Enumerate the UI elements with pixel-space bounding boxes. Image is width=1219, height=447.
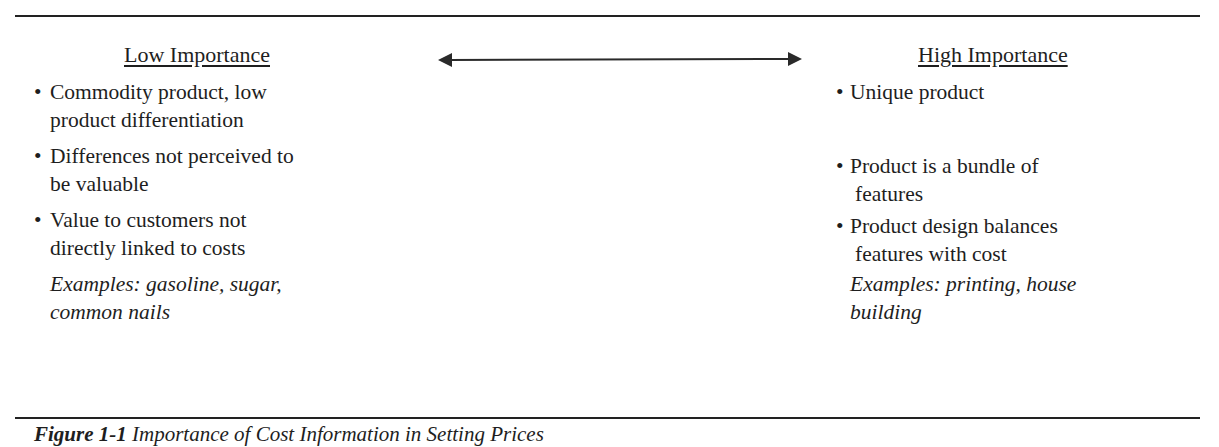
- high-item-2-line2: features: [850, 180, 1039, 208]
- low-item-3-line2: directly linked to costs: [50, 234, 246, 262]
- low-examples: Examples: gasoline, sugar, common nails: [34, 270, 282, 326]
- low-item-2-line1: Differences not perceived to: [50, 142, 294, 170]
- figure-caption: Figure 1-1 Importance of Cost Informatio…: [34, 422, 544, 447]
- low-item-2-line2: be valuable: [50, 170, 294, 198]
- high-examples-line2: building: [850, 298, 1076, 326]
- low-item-1-line1: Commodity product, low: [50, 78, 267, 106]
- figure-caption-text: Importance of Cost Information in Settin…: [132, 422, 544, 446]
- high-item-1-line1: Unique product: [850, 78, 984, 106]
- high-importance-heading: High Importance: [918, 42, 1068, 68]
- bullet-icon: •: [34, 206, 42, 234]
- bullet-icon: •: [34, 78, 42, 106]
- high-item-3: • Product design balances features with …: [836, 212, 1058, 268]
- high-item-2: • Product is a bundle of features: [836, 152, 1039, 208]
- low-examples-line1: Examples: gasoline, sugar,: [50, 270, 282, 298]
- high-item-2-line1: Product is a bundle of: [850, 152, 1039, 180]
- low-item-2: • Differences not perceived to be valuab…: [34, 142, 294, 198]
- low-item-1: • Commodity product, low product differe…: [34, 78, 267, 134]
- high-examples-line1: Examples: printing, house: [850, 270, 1076, 298]
- double-headed-arrow-icon: [437, 50, 803, 70]
- low-item-1-line2: product differentiation: [50, 106, 267, 134]
- high-item-3-line2: features with cost: [850, 240, 1058, 268]
- bullet-icon: •: [836, 152, 844, 180]
- high-item-1: • Unique product: [836, 78, 984, 106]
- low-item-3-line1: Value to customers not: [50, 206, 246, 234]
- bullet-icon: •: [836, 78, 844, 106]
- high-item-3-line1: Product design balances: [850, 212, 1058, 240]
- bullet-icon: •: [836, 212, 844, 240]
- figure-label: Figure 1-1: [34, 422, 127, 446]
- top-rule: [15, 15, 1200, 17]
- bullet-icon: •: [34, 142, 42, 170]
- high-examples: Examples: printing, house building: [836, 270, 1076, 326]
- low-importance-heading: Low Importance: [124, 42, 270, 68]
- low-item-3: • Value to customers not directly linked…: [34, 206, 246, 262]
- bottom-rule: [15, 417, 1200, 419]
- low-examples-line2: common nails: [50, 298, 282, 326]
